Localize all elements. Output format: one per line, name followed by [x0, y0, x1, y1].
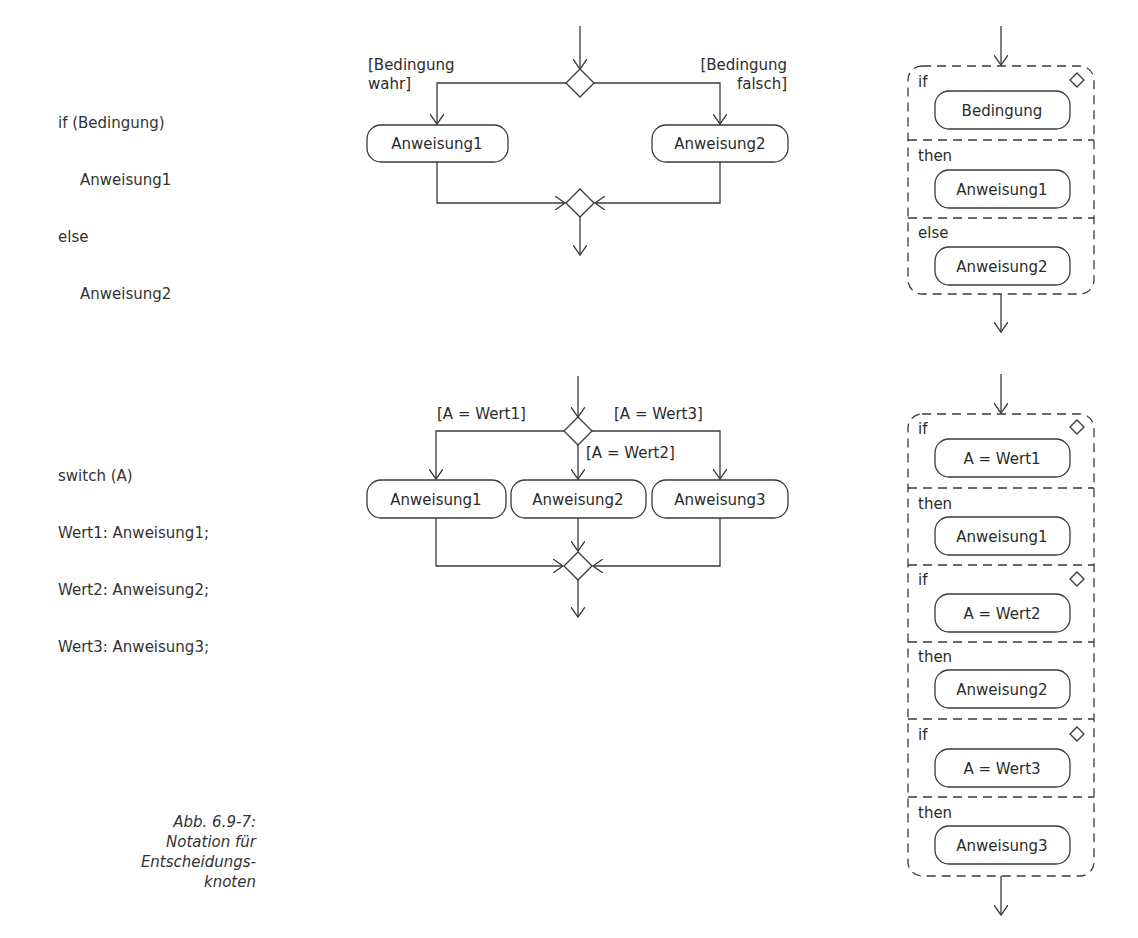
- action-label: Anweisung2: [532, 491, 623, 509]
- section-keyword: then: [918, 804, 952, 822]
- switch-conditional-node: if A = Wert1 then Anweisung1 if A = Wert…: [908, 374, 1094, 915]
- guard-label: falsch]: [737, 75, 787, 93]
- action-label: A = Wert2: [963, 605, 1040, 623]
- flow-arrow: [595, 162, 720, 203]
- if-conditional-node: if Bedingung then Anweisung1 else Anweis…: [908, 26, 1094, 332]
- decision-diamond-icon: [1070, 73, 1084, 87]
- section-keyword: then: [918, 648, 952, 666]
- flow-arrow: [437, 83, 566, 124]
- decision-diamond-icon: [564, 417, 592, 445]
- flow-arrow: [593, 518, 720, 566]
- action-label: Anweisung1: [956, 528, 1047, 546]
- action-label: Anweisung3: [956, 837, 1047, 855]
- action-label: Bedingung: [962, 102, 1043, 120]
- decision-diamond-icon: [566, 69, 594, 97]
- merge-diamond-icon: [566, 189, 594, 217]
- decision-diamond-icon: [1070, 727, 1084, 741]
- guard-label: [A = Wert2]: [586, 444, 675, 462]
- flow-arrow: [437, 162, 565, 203]
- flow-arrow: [436, 518, 563, 566]
- section-keyword: else: [918, 224, 948, 242]
- flow-arrow: [436, 431, 564, 479]
- action-label: Anweisung1: [391, 135, 482, 153]
- merge-diamond-icon: [564, 552, 592, 580]
- flow-arrow: [594, 83, 720, 124]
- diagram-canvas: [Bedingung wahr] [Bedingung falsch] Anwe…: [0, 0, 1138, 938]
- guard-label: wahr]: [368, 75, 411, 93]
- section-keyword: then: [918, 495, 952, 513]
- section-keyword: if: [918, 571, 928, 589]
- action-label: Anweisung1: [956, 181, 1047, 199]
- guard-label: [Bedingung: [700, 56, 787, 74]
- action-label: A = Wert1: [963, 450, 1040, 468]
- if-activity-diagram: [Bedingung wahr] [Bedingung falsch] Anwe…: [367, 26, 788, 255]
- section-keyword: if: [918, 420, 928, 438]
- action-label: Anweisung2: [956, 258, 1047, 276]
- decision-diamond-icon: [1070, 420, 1084, 434]
- guard-label: [Bedingung: [368, 56, 455, 74]
- action-label: Anweisung1: [390, 491, 481, 509]
- action-label: Anweisung2: [956, 681, 1047, 699]
- section-keyword: if: [918, 73, 928, 91]
- section-keyword: then: [918, 147, 952, 165]
- decision-diamond-icon: [1070, 572, 1084, 586]
- action-label: Anweisung3: [674, 491, 765, 509]
- action-label: A = Wert3: [963, 760, 1040, 778]
- guard-label: [A = Wert3]: [614, 405, 703, 423]
- switch-activity-diagram: [A = Wert1] [A = Wert2] [A = Wert3] Anwe…: [367, 376, 788, 617]
- section-keyword: if: [918, 726, 928, 744]
- action-label: Anweisung2: [674, 135, 765, 153]
- guard-label: [A = Wert1]: [437, 405, 526, 423]
